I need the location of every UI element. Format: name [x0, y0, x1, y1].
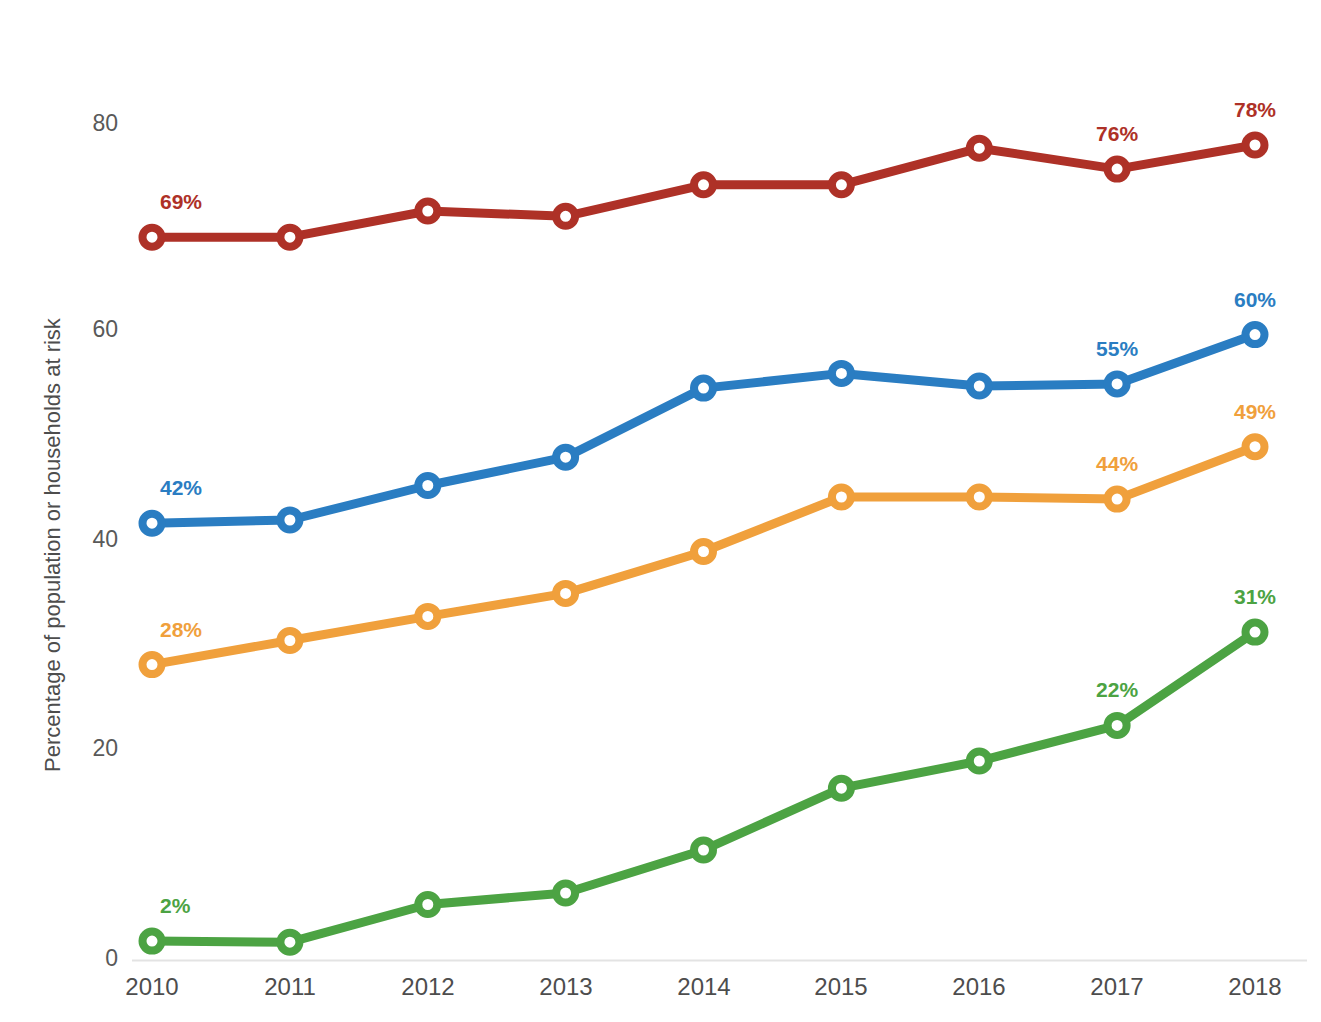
series-green-marker[interactable] [832, 779, 851, 798]
series-red-marker[interactable] [556, 207, 575, 226]
series-green-point-label: 2% [160, 894, 191, 917]
series-red-point-label: 69% [160, 190, 202, 213]
series-green-marker[interactable] [1108, 716, 1127, 735]
series-orange-marker[interactable] [418, 607, 437, 626]
y-tick-label-80: 80 [92, 110, 118, 136]
series-orange-marker[interactable] [280, 631, 299, 650]
line-chart: Percentage of population or households a… [0, 0, 1321, 1022]
x-tick-label-2014: 2014 [677, 973, 730, 1000]
y-tick-label-40: 40 [92, 526, 118, 552]
series-green-marker[interactable] [1246, 623, 1265, 642]
series-orange-marker[interactable] [832, 488, 851, 507]
series-green-marker[interactable] [418, 895, 437, 914]
series-orange-marker[interactable] [143, 655, 162, 674]
series-blue-marker[interactable] [143, 514, 162, 533]
series-layer [143, 136, 1265, 952]
series-green-marker[interactable] [280, 933, 299, 952]
series-red-marker[interactable] [832, 175, 851, 194]
series-green-marker[interactable] [556, 884, 575, 903]
x-tick-label-2015: 2015 [814, 973, 867, 1000]
series-red [143, 136, 1265, 247]
y-tick-label-20: 20 [92, 735, 118, 761]
series-blue-point-label: 60% [1234, 288, 1276, 311]
series-red-marker[interactable] [143, 228, 162, 247]
series-blue-point-label: 55% [1096, 337, 1138, 360]
y-tick-label-60: 60 [92, 316, 118, 342]
chart-container: Percentage of population or households a… [0, 0, 1321, 1022]
series-orange-marker[interactable] [970, 488, 989, 507]
series-blue-marker[interactable] [556, 448, 575, 467]
series-red-marker[interactable] [694, 175, 713, 194]
series-orange-marker[interactable] [694, 542, 713, 561]
x-tick-label-2012: 2012 [401, 973, 454, 1000]
series-blue-marker[interactable] [970, 377, 989, 396]
x-tick-label-2010: 2010 [125, 973, 178, 1000]
series-red-point-label: 78% [1234, 98, 1276, 121]
series-green-point-label: 31% [1234, 585, 1276, 608]
series-green-marker[interactable] [143, 932, 162, 951]
y-axis-title: Percentage of population or households a… [40, 317, 65, 772]
series-green-line [152, 632, 1255, 942]
series-blue-marker[interactable] [418, 476, 437, 495]
series-blue-marker[interactable] [280, 511, 299, 530]
series-orange-point-label: 28% [160, 618, 202, 641]
series-orange-marker[interactable] [1246, 437, 1265, 456]
series-green [143, 623, 1265, 952]
series-orange-point-label: 44% [1096, 452, 1138, 475]
series-red-marker[interactable] [970, 139, 989, 158]
series-red-marker[interactable] [418, 202, 437, 221]
x-tick-label-2017: 2017 [1090, 973, 1143, 1000]
series-green-marker[interactable] [694, 841, 713, 860]
series-blue-marker[interactable] [1108, 374, 1127, 393]
series-blue-marker[interactable] [1246, 325, 1265, 344]
series-green-point-label: 22% [1096, 678, 1138, 701]
x-tick-label-2016: 2016 [952, 973, 1005, 1000]
x-tick-label-2011: 2011 [264, 973, 316, 1000]
series-red-point-label: 76% [1096, 122, 1138, 145]
series-orange-point-label: 49% [1234, 400, 1276, 423]
x-tick-label-2018: 2018 [1228, 973, 1281, 1000]
series-blue-point-label: 42% [160, 476, 202, 499]
series-orange-marker[interactable] [556, 584, 575, 603]
series-red-marker[interactable] [1108, 160, 1127, 179]
series-red-marker[interactable] [280, 228, 299, 247]
series-green-marker[interactable] [970, 752, 989, 771]
series-red-marker[interactable] [1246, 136, 1265, 155]
x-tick-label-2013: 2013 [539, 973, 592, 1000]
series-orange-marker[interactable] [1108, 490, 1127, 509]
series-blue-marker[interactable] [832, 364, 851, 383]
y-tick-label-0: 0 [105, 945, 118, 971]
series-blue-marker[interactable] [694, 379, 713, 398]
